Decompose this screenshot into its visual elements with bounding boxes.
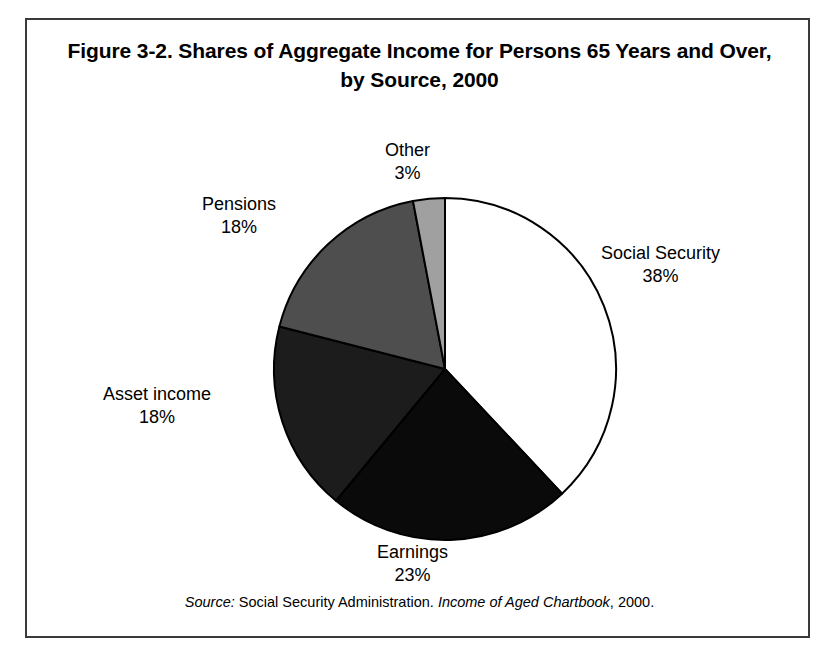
pie-label-pensions-name: Pensions bbox=[202, 193, 276, 216]
pie-label-asset-income-value: 18% bbox=[103, 406, 211, 429]
pie-label-earnings-value: 23% bbox=[377, 564, 448, 587]
pie-label-asset-income-name: Asset income bbox=[103, 383, 211, 406]
source-publication: Income of Aged Chartbook bbox=[438, 594, 610, 610]
figure-border-frame: Figure 3-2. Shares of Aggregate Income f… bbox=[25, 18, 810, 638]
pie-label-other-value: 3% bbox=[385, 162, 430, 185]
pie-label-pensions: Pensions 18% bbox=[202, 193, 276, 239]
source-prefix: Source: bbox=[185, 594, 235, 610]
pie-label-social-security-name: Social Security bbox=[601, 242, 720, 265]
pie-label-other-name: Other bbox=[385, 139, 430, 162]
pie-chart: Social Security 38% Earnings 23% Asset i… bbox=[27, 20, 808, 636]
source-suffix: , 2000. bbox=[610, 594, 654, 610]
pie-label-earnings: Earnings 23% bbox=[377, 541, 448, 587]
pie-label-pensions-value: 18% bbox=[202, 216, 276, 239]
figure-source-note: Source: Social Security Administration. … bbox=[67, 594, 772, 610]
pie-label-earnings-name: Earnings bbox=[377, 541, 448, 564]
pie-label-social-security: Social Security 38% bbox=[601, 242, 720, 288]
pie-label-asset-income: Asset income 18% bbox=[103, 383, 211, 429]
pie-label-other: Other 3% bbox=[385, 139, 430, 185]
pie-slice-group bbox=[274, 198, 616, 540]
pie-label-social-security-value: 38% bbox=[601, 265, 720, 288]
source-agency: Social Security Administration. bbox=[235, 594, 438, 610]
